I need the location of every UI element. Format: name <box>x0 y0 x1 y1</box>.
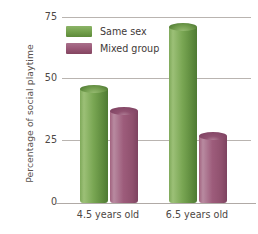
legend-item-same-sex: Same sex <box>66 24 159 38</box>
legend-label-mixed-group: Mixed group <box>100 43 159 54</box>
y-tick-label-25: 25 <box>29 134 57 145</box>
y-axis-title: Percentage of social playtime <box>24 29 35 199</box>
legend: Same sex Mixed group <box>66 24 159 58</box>
bar-cap-icon <box>110 107 138 115</box>
y-tick-label-50: 50 <box>29 72 57 83</box>
y-tick-label-0: 0 <box>29 196 57 207</box>
y-tick-label-75: 75 <box>29 11 57 22</box>
gridline-50 <box>62 78 251 79</box>
bar-same-sex-4-5 <box>80 89 108 203</box>
legend-swatch-green-icon <box>66 26 92 37</box>
legend-item-mixed-group: Mixed group <box>66 41 159 55</box>
gridline-75 <box>62 17 251 18</box>
x-tick-label-6-5-years: 6.5 years old <box>155 209 239 220</box>
legend-label-same-sex: Same sex <box>100 26 147 37</box>
legend-swatch-purple-icon <box>66 43 92 54</box>
bar-cap-icon <box>199 132 227 140</box>
bar-chart: Percentage of social playtime 75 50 25 0… <box>0 0 258 234</box>
bar-same-sex-6-5 <box>169 27 197 203</box>
bar-cap-icon <box>169 23 197 31</box>
axis-baseline <box>56 203 256 204</box>
bar-mixed-group-6-5 <box>199 136 227 203</box>
bar-cap-icon <box>80 85 108 93</box>
x-tick-label-4-5-years: 4.5 years old <box>66 209 150 220</box>
bar-mixed-group-4-5 <box>110 111 138 203</box>
